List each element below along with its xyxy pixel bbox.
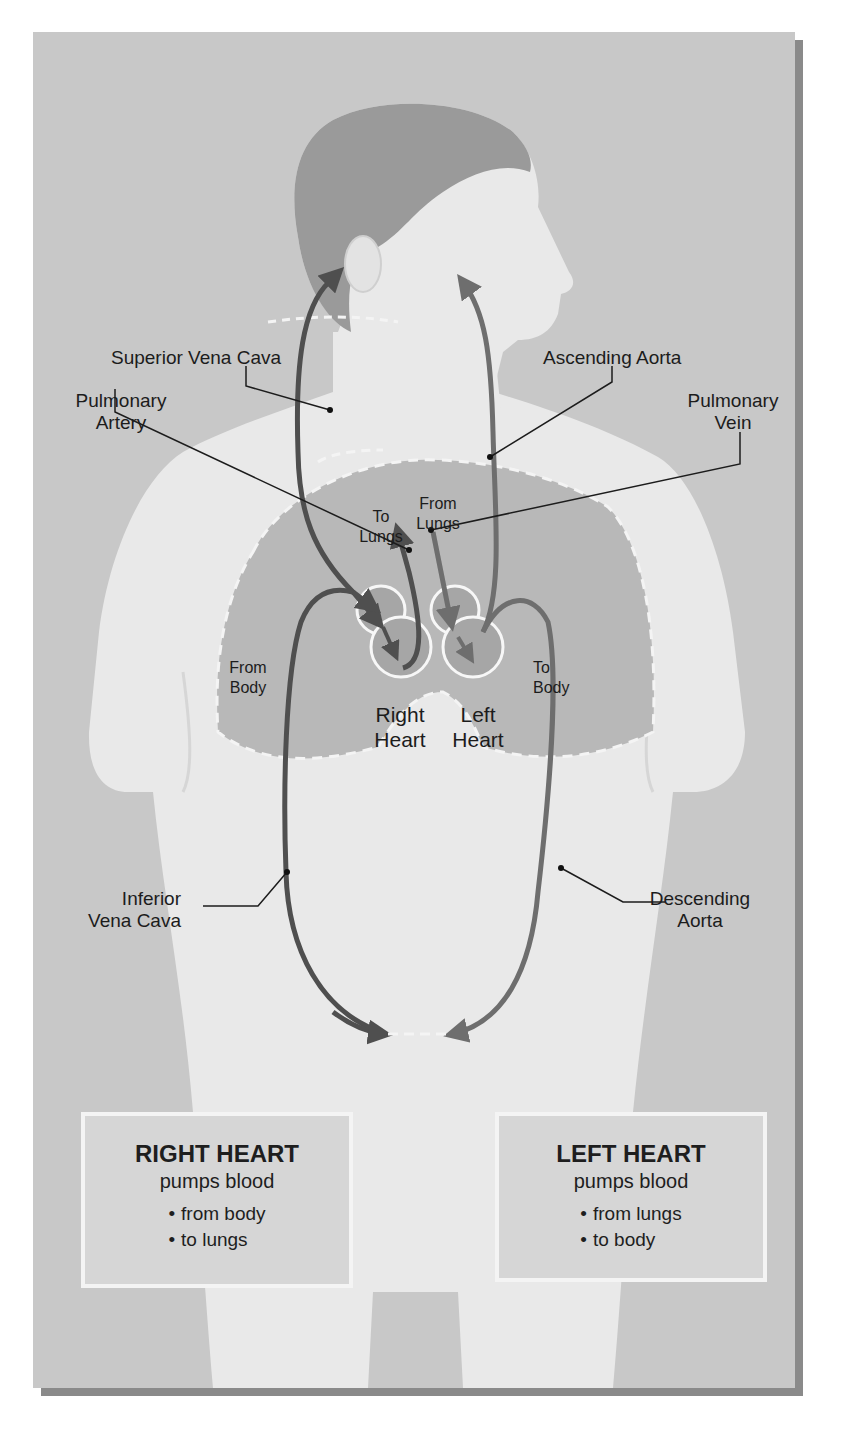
label-right-heart: Right Heart	[360, 702, 440, 752]
label-descending-aorta: Descending Aorta	[645, 888, 755, 932]
label-to-lungs-line2: Lungs	[351, 527, 411, 547]
label-from-lungs-line1: From	[405, 494, 471, 514]
right-heart-box-title: RIGHT HEART	[85, 1140, 349, 1168]
label-pulmonary-vein-line2: Vein	[683, 412, 783, 434]
label-left-heart-line2: Heart	[438, 727, 518, 752]
left-heart-bullet: from lungs	[580, 1201, 681, 1227]
label-superior-vena-cava: Superior Vena Cava	[111, 347, 281, 369]
label-from-body-line1: From	[213, 658, 283, 678]
left-heart-info-box: LEFT HEART pumps blood from lungs to bod…	[495, 1112, 767, 1282]
left-heart-box-subtitle: pumps blood	[499, 1170, 763, 1193]
right-heart-bullet: to lungs	[168, 1227, 265, 1253]
label-left-heart: Left Heart	[438, 702, 518, 752]
label-pulmonary-vein: Pulmonary Vein	[683, 390, 783, 434]
label-to-body-line1: To	[533, 658, 599, 678]
label-to-body: To Body	[533, 658, 599, 698]
label-from-body: From Body	[213, 658, 283, 698]
label-right-heart-line2: Heart	[360, 727, 440, 752]
label-pulmonary-vein-line1: Pulmonary	[683, 390, 783, 412]
head	[294, 104, 573, 412]
left-heart-bullet: to body	[580, 1227, 681, 1253]
left-heart-box-bullets: from lungs to body	[580, 1201, 681, 1253]
left-heart-box-title: LEFT HEART	[499, 1140, 763, 1168]
ear	[345, 236, 381, 292]
right-heart-info-box: RIGHT HEART pumps blood from body to lun…	[81, 1112, 353, 1288]
right-heart-box-subtitle: pumps blood	[85, 1170, 349, 1193]
label-pulmonary-artery-line1: Pulmonary	[71, 390, 171, 412]
label-to-lungs: To Lungs	[351, 507, 411, 547]
diagram-panel: Superior Vena Cava Ascending Aorta Pulmo…	[33, 32, 795, 1388]
label-inferior-vena-cava: Inferior Vena Cava	[71, 888, 181, 932]
right-heart-bullet: from body	[168, 1201, 265, 1227]
label-ascending-aorta: Ascending Aorta	[543, 347, 681, 369]
label-descending-aorta-line2: Aorta	[645, 910, 755, 932]
label-to-lungs-line1: To	[351, 507, 411, 527]
label-from-lungs: From Lungs	[405, 494, 471, 534]
label-from-lungs-line2: Lungs	[405, 514, 471, 534]
label-to-body-line2: Body	[533, 678, 599, 698]
label-right-heart-line1: Right	[360, 702, 440, 727]
label-inferior-vena-cava-line1: Inferior	[71, 888, 181, 910]
label-descending-aorta-line1: Descending	[645, 888, 755, 910]
label-from-body-line2: Body	[213, 678, 283, 698]
right-heart-box-bullets: from body to lungs	[168, 1201, 265, 1253]
label-left-heart-line1: Left	[438, 702, 518, 727]
label-pulmonary-artery: Pulmonary Artery	[71, 390, 171, 434]
label-inferior-vena-cava-line2: Vena Cava	[71, 910, 181, 932]
label-pulmonary-artery-line2: Artery	[71, 412, 171, 434]
